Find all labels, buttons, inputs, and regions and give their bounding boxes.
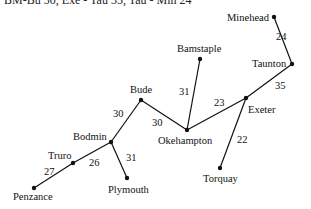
edge-bude-okehampton	[141, 100, 187, 130]
node-torquay	[218, 166, 222, 170]
edge-weight-label: 24	[276, 31, 287, 42]
edge-weight-label: 22	[237, 134, 248, 145]
edge-exeter-torquay	[220, 98, 246, 168]
node-truro	[71, 161, 75, 165]
node-label-torquay: Torquay	[203, 173, 239, 184]
node-label-bamstaple: Bamstaple	[177, 43, 222, 54]
node-okehampton	[185, 128, 189, 132]
node-label-truro: Truro	[48, 150, 72, 161]
node-label-exeter: Exeter	[248, 104, 276, 115]
edge-weight-label: 26	[89, 157, 100, 168]
node-label-okehampton: Okehampton	[158, 135, 213, 146]
edge-weight-label: 27	[44, 166, 55, 177]
node-bude	[139, 98, 143, 102]
edge-weight-label: 31	[126, 152, 137, 163]
node-minehead	[272, 15, 276, 19]
node-label-bodmin: Bodmin	[73, 131, 108, 142]
node-exeter	[244, 96, 248, 100]
node-taunton	[290, 62, 294, 66]
edge-weight-label: 31	[179, 86, 190, 97]
node-label-penzance: Penzance	[13, 191, 53, 202]
edge-bodmin-bude	[111, 100, 141, 142]
edge-weight-label: 30	[113, 108, 124, 119]
weighted-graph-diagram: 24352331223030312627MineheadTauntonBamst…	[0, 0, 311, 209]
edge-weight-label: 35	[275, 80, 286, 91]
node-label-taunton: Taunton	[252, 58, 287, 69]
node-label-plymouth: Plymouth	[108, 184, 150, 195]
node-label-bude: Bude	[130, 84, 153, 95]
edge-bodmin-plymouth	[111, 142, 127, 178]
node-penzance	[32, 186, 36, 190]
node-bodmin	[109, 140, 113, 144]
node-plymouth	[125, 176, 129, 180]
edge-weight-label: 23	[214, 97, 225, 108]
edge-weight-label: 30	[152, 117, 163, 128]
node-bamstaple	[198, 57, 202, 61]
node-label-minehead: Minehead	[227, 12, 270, 23]
